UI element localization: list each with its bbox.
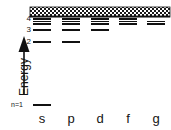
level-line-p-n6 — [62, 23, 80, 25]
ground-state-label: n=1 — [11, 101, 23, 108]
orbital-label-p: p — [56, 112, 86, 125]
level-line-d-n4 — [91, 18, 109, 20]
level-line-g-n5 — [147, 21, 165, 23]
level-line-f-n5 — [119, 21, 137, 23]
level-line-p-n4 — [62, 18, 80, 20]
level-number-label: 2 — [22, 38, 31, 46]
energy-axis-label: Energy — [18, 58, 30, 96]
level-line-s-n5 — [33, 21, 51, 23]
level-line-p-n2 — [62, 41, 80, 43]
level-line-s-n1 — [33, 104, 51, 106]
continuum-band-edge — [30, 16, 170, 18]
orbital-label-d: d — [85, 112, 115, 125]
orbital-label-f: f — [113, 112, 143, 125]
level-line-s-n4 — [33, 18, 51, 20]
level-number-label: 4 — [22, 15, 31, 23]
level-line-s-n3 — [33, 29, 51, 31]
level-line-g-n6 — [147, 23, 165, 25]
continuum-band — [30, 7, 170, 17]
level-line-d-n3 — [91, 29, 109, 31]
orbital-label-s: s — [27, 112, 57, 125]
level-line-p-n5 — [62, 21, 80, 23]
level-line-f-n4 — [119, 18, 137, 20]
level-line-d-n5 — [91, 21, 109, 23]
level-line-f-n6 — [119, 23, 137, 25]
level-line-d-n6 — [91, 23, 109, 25]
energy-level-diagram: Energy432n=1spdfg — [0, 0, 171, 130]
level-line-s-n6 — [33, 23, 51, 25]
level-number-label: 3 — [22, 26, 31, 34]
level-line-p-n3 — [62, 29, 80, 31]
level-line-s-n2 — [33, 41, 51, 43]
orbital-label-g: g — [141, 112, 171, 125]
